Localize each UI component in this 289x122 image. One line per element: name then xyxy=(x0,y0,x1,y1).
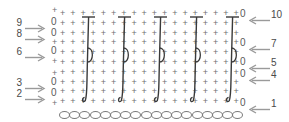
turning-chain-symbol: 0 xyxy=(240,98,246,108)
row-number-left: 9 xyxy=(8,18,22,28)
turning-chain-symbol: 0 xyxy=(240,57,246,67)
left-arrow-icon xyxy=(249,71,271,89)
left-arrow-icon xyxy=(249,11,271,29)
turning-chain-symbol: 0 xyxy=(51,46,57,56)
label-layer: 986320000010754100000 xyxy=(0,0,289,122)
turning-chain-symbol: 0 xyxy=(240,69,246,79)
turning-chain-symbol: 0 xyxy=(51,28,57,38)
row-number-left: 6 xyxy=(8,47,22,57)
right-arrow-icon xyxy=(25,48,47,66)
row-number-right: 7 xyxy=(271,39,277,49)
turning-chain-symbol: 0 xyxy=(240,38,246,48)
turning-chain-symbol: 0 xyxy=(51,77,57,87)
row-number-left: 3 xyxy=(8,78,22,88)
turning-chain-symbol: 0 xyxy=(240,9,246,19)
row-number-left: 8 xyxy=(8,29,22,39)
crochet-chart-diagram: ++++++++++++++++++++++++++++++++++++++++… xyxy=(0,0,289,122)
right-arrow-icon xyxy=(25,90,47,108)
row-number-right: 1 xyxy=(271,99,277,109)
row-number-right: 10 xyxy=(271,10,282,20)
left-arrow-icon xyxy=(249,40,271,58)
turning-chain-symbol: 0 xyxy=(51,88,57,98)
turning-chain-symbol: 0 xyxy=(51,17,57,27)
row-number-left: 2 xyxy=(8,89,22,99)
right-arrow-icon xyxy=(25,30,47,48)
row-number-right: 4 xyxy=(271,70,277,80)
row-number-right: 5 xyxy=(271,58,277,68)
left-arrow-icon xyxy=(249,100,271,118)
